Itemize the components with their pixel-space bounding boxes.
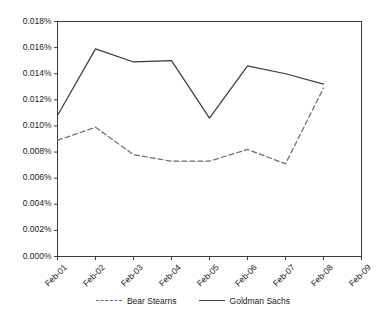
legend-label-bear-stearns: Bear Stearns	[127, 296, 177, 306]
legend-item-goldman-sachs: Goldman Sachs	[199, 296, 290, 306]
y-tick-label: 0.000%	[23, 252, 52, 261]
y-tick-label: 0.018%	[23, 17, 52, 26]
x-axis-tick-marks	[58, 257, 362, 261]
chart-legend: Bear Stearns Goldman Sachs	[0, 296, 386, 306]
legend-swatch-dashed-icon	[96, 300, 122, 302]
line-chart: 0.000%0.002%0.004%0.006%0.008%0.010%0.01…	[0, 0, 386, 319]
y-axis-tick-marks	[54, 22, 58, 257]
y-tick-label: 0.006%	[23, 173, 52, 182]
legend-label-goldman-sachs: Goldman Sachs	[230, 296, 290, 306]
y-tick-label: 0.004%	[23, 199, 52, 208]
legend-swatch-solid-icon	[199, 300, 225, 302]
y-tick-label: 0.008%	[23, 147, 52, 156]
plot-area-frame	[58, 22, 362, 257]
y-tick-label: 0.014%	[23, 69, 52, 78]
legend-item-bear-stearns: Bear Stearns	[96, 296, 177, 306]
y-tick-label: 0.002%	[23, 225, 52, 234]
y-tick-label: 0.012%	[23, 95, 52, 104]
y-tick-label: 0.010%	[23, 121, 52, 130]
y-tick-label: 0.016%	[23, 43, 52, 52]
